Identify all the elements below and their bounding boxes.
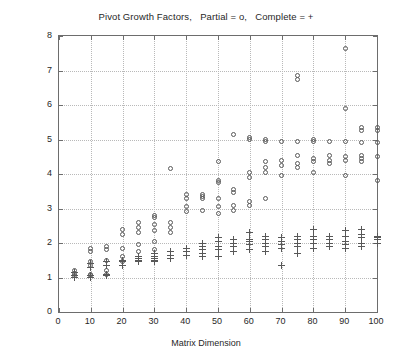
x-tick-label: 40 [180, 316, 190, 326]
x-axis-tick [377, 308, 378, 312]
data-point-partial [184, 192, 189, 197]
data-point-partial [136, 225, 141, 230]
data-point-partial [136, 230, 141, 235]
y-tick-label: 6 [32, 99, 52, 109]
data-point-partial [152, 222, 157, 227]
data-point-partial [168, 220, 173, 225]
y-axis-tick [373, 312, 377, 313]
data-point-partial [216, 211, 221, 216]
data-point-partial [231, 208, 236, 213]
data-point-partial [200, 208, 205, 213]
data-points-layer [59, 36, 377, 312]
data-point-partial [263, 159, 268, 164]
x-tick-label: 70 [276, 316, 286, 326]
data-point-complete [310, 233, 317, 240]
data-point-partial [120, 246, 125, 251]
data-point-partial [168, 225, 173, 230]
data-point-complete [167, 248, 174, 255]
data-point-partial [216, 204, 221, 209]
data-point-partial [343, 46, 348, 51]
data-point-complete [278, 234, 285, 241]
data-point-partial [200, 192, 205, 197]
data-point-partial [184, 204, 189, 209]
data-point-partial [311, 156, 316, 161]
data-point-partial [120, 227, 125, 232]
data-point-complete [71, 269, 78, 276]
data-point-partial [279, 163, 284, 168]
data-point-partial [231, 203, 236, 208]
x-tick-label: 20 [117, 316, 127, 326]
data-point-partial [327, 153, 332, 158]
x-axis-title: Matrix Dimension [0, 338, 412, 348]
data-point-partial [120, 232, 125, 237]
y-tick-label: 3 [32, 203, 52, 213]
data-point-partial [216, 178, 221, 183]
data-point-complete [87, 260, 94, 267]
data-point-partial [88, 246, 93, 251]
chart-title: Pivot Growth Factors, Partial = o, Compl… [0, 11, 412, 22]
data-point-complete [310, 226, 317, 233]
data-point-complete [215, 253, 222, 260]
figure-canvas: Pivot Growth Factors, Partial = o, Compl… [0, 0, 412, 362]
data-point-partial [279, 173, 284, 178]
y-tick-label: 0 [32, 306, 52, 316]
x-tick-label: 0 [55, 316, 60, 326]
data-point-complete [358, 226, 365, 233]
data-point-complete [119, 257, 126, 264]
x-tick-label: 100 [368, 316, 383, 326]
data-point-complete [87, 272, 94, 279]
data-point-partial [359, 125, 364, 130]
data-point-partial [359, 153, 364, 158]
data-point-partial [216, 159, 221, 164]
y-tick-label: 7 [32, 65, 52, 75]
data-point-complete [294, 233, 301, 240]
data-point-partial [168, 230, 173, 235]
x-tick-label: 80 [307, 316, 317, 326]
y-tick-label: 5 [32, 134, 52, 144]
data-point-partial [168, 166, 173, 171]
data-point-complete [151, 250, 158, 257]
data-point-complete [342, 227, 349, 234]
data-point-partial [184, 209, 189, 214]
data-point-complete [103, 271, 110, 278]
data-point-complete [374, 233, 381, 240]
data-point-partial [216, 196, 221, 201]
data-point-complete [215, 234, 222, 241]
data-point-partial [231, 132, 236, 137]
data-point-partial [247, 175, 252, 180]
data-point-partial [327, 158, 332, 163]
data-point-partial [311, 137, 316, 142]
plot-area [58, 35, 378, 313]
data-point-partial [279, 158, 284, 163]
data-point-complete [135, 253, 142, 260]
data-point-partial [327, 139, 332, 144]
data-point-partial [279, 139, 284, 144]
x-tick-label: 50 [212, 316, 222, 326]
data-point-partial [343, 173, 348, 178]
data-point-complete [294, 250, 301, 257]
data-point-partial [263, 170, 268, 175]
data-point-complete [246, 236, 253, 243]
data-point-partial [295, 153, 300, 158]
data-point-complete [183, 245, 190, 252]
data-point-partial [263, 196, 268, 201]
data-point-complete [262, 233, 269, 240]
data-point-partial [247, 170, 252, 175]
data-point-complete [278, 262, 285, 269]
x-tick-label: 30 [148, 316, 158, 326]
data-point-complete [326, 233, 333, 240]
data-point-complete [103, 258, 110, 265]
data-point-partial [343, 139, 348, 144]
x-tick-label: 10 [85, 316, 95, 326]
y-axis-tick [59, 312, 63, 313]
data-point-partial [375, 140, 380, 145]
data-point-partial [152, 239, 157, 244]
y-tick-label: 2 [32, 237, 52, 247]
data-point-partial [343, 154, 348, 159]
y-tick-label: 1 [32, 272, 52, 282]
data-point-complete [230, 236, 237, 243]
y-tick-label: 4 [32, 168, 52, 178]
data-point-partial [136, 220, 141, 225]
x-axis-tick [377, 36, 378, 40]
data-point-partial [136, 242, 141, 247]
